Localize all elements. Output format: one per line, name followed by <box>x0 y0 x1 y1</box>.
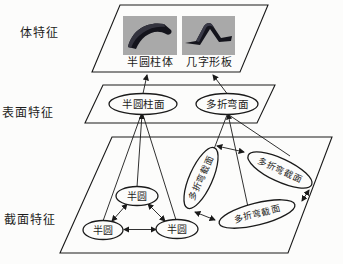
half-cylinder-caption: 半圆柱体 <box>127 55 173 68</box>
semicircle-top-label: 半圆 <box>127 190 148 202</box>
diagram-svg: 体特征 表面特征 截面特征 半圆柱面 多折弯面 半圆 半圆 半圆 <box>0 0 343 264</box>
node-semicircle-right: 半圆 <box>156 220 198 239</box>
bent-plate-thumbnail <box>182 16 235 55</box>
bent-plate-photo-background <box>182 16 235 55</box>
side-label-section-features: 截面特征 <box>4 212 56 227</box>
half-cylinder-thumbnail <box>123 16 177 55</box>
multibend-surface-label: 多折弯面 <box>206 98 248 110</box>
node-multibend-surface: 多折弯面 <box>196 94 258 115</box>
node-semicircle-top: 半圆 <box>116 187 158 206</box>
feature-hierarchy-diagram: 体特征 表面特征 截面特征 半圆柱面 多折弯面 半圆 半圆 半圆 <box>0 0 343 264</box>
node-half-cylinder-surface: 半圆柱面 <box>109 94 177 115</box>
bent-plate-caption: 几字形板 <box>186 55 232 68</box>
semicircle-right-label: 半圆 <box>167 223 188 235</box>
half-cylinder-photo-background <box>123 16 177 55</box>
side-label-surface-features: 表面特征 <box>2 105 54 120</box>
half-cylinder-surface-label: 半圆柱面 <box>122 98 164 110</box>
body-feature-plane <box>92 5 268 72</box>
side-label-body-features: 体特征 <box>20 25 59 40</box>
node-semicircle-left: 半圆 <box>83 221 123 240</box>
semicircle-left-label: 半圆 <box>93 224 114 236</box>
